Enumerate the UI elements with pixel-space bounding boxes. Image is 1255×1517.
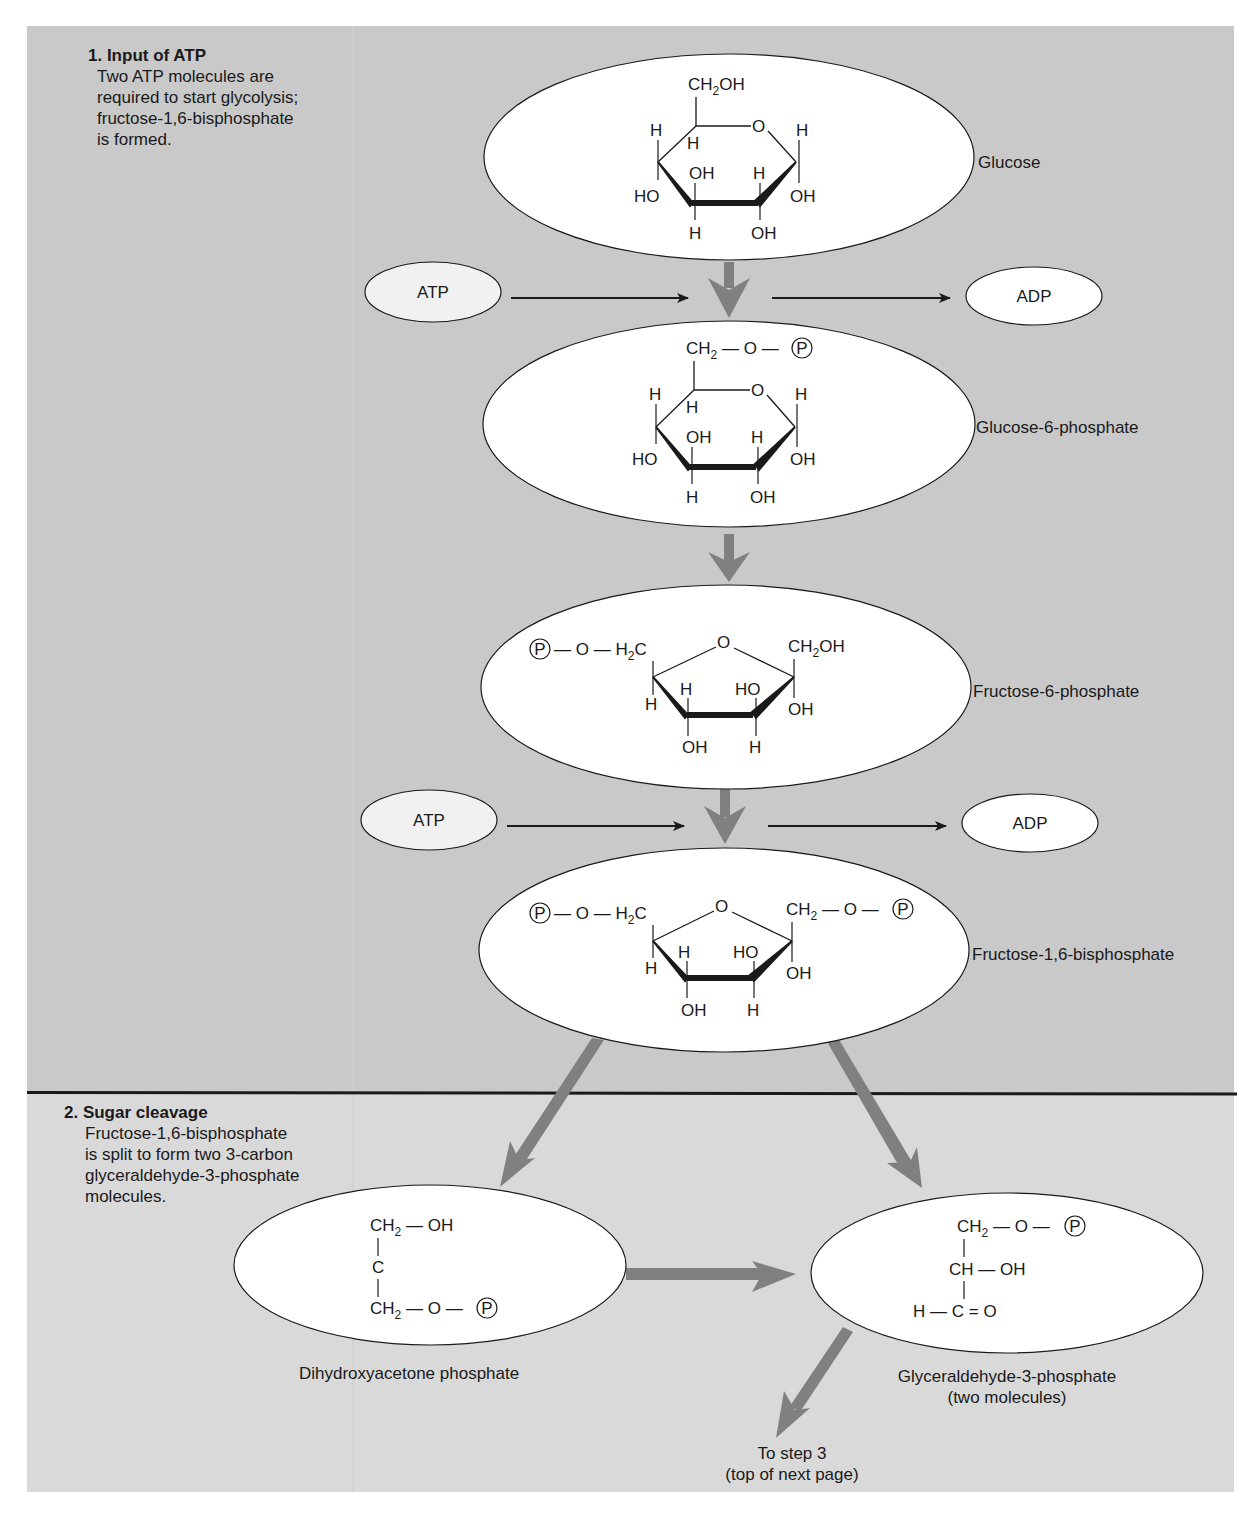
svg-text:H: H: [751, 428, 763, 447]
process-arrow-down: [708, 534, 750, 582]
fructose-1-6-bisphosphate-molecule: P — O — H2C O CH2 — O — P OH H H OH HO H: [479, 848, 969, 1052]
process-arrow-isomerase: [626, 1261, 796, 1292]
svg-text:OH: OH: [790, 187, 816, 206]
atp-pill: ATP: [365, 262, 501, 322]
svg-text:ATP: ATP: [417, 283, 449, 302]
svg-text:H: H: [686, 488, 698, 507]
to-step-3-note: To step 3 (top of next page): [692, 1443, 892, 1485]
svg-text:H: H: [795, 385, 807, 404]
svg-text:H: H: [687, 134, 699, 153]
process-arrow-split-left: [500, 1038, 604, 1187]
svg-text:H: H: [678, 943, 690, 962]
fructose-6-phosphate-label: Fructose-6-phosphate: [973, 681, 1139, 702]
svg-text:H: H: [680, 680, 692, 699]
svg-text:H — C = O: H — C = O: [913, 1302, 997, 1321]
svg-text:OH: OH: [682, 738, 708, 757]
svg-text:HO: HO: [735, 680, 761, 699]
svg-text:C: C: [372, 1258, 384, 1277]
svg-text:H: H: [645, 695, 657, 714]
svg-text:OH: OH: [681, 1001, 707, 1020]
glyceraldehyde-3-phosphate-name: Glyceraldehyde-3-phosphate: [857, 1366, 1157, 1387]
svg-text:P: P: [534, 904, 545, 923]
svg-text:OH: OH: [750, 488, 776, 507]
glucose-molecule: CH2OH O H HO H H OH OH H H OH: [484, 54, 974, 260]
svg-text:OH: OH: [790, 450, 816, 469]
svg-text:O: O: [752, 117, 765, 136]
svg-text:OH: OH: [686, 428, 712, 447]
fructose-1-6-bisphosphate-label: Fructose-1,6-bisphosphate: [972, 944, 1174, 965]
glyceraldehyde-3-phosphate-molecule: CH2 — O — P CH — OH H — C = O: [811, 1193, 1203, 1353]
svg-text:H: H: [749, 738, 761, 757]
svg-text:O: O: [751, 381, 764, 400]
svg-text:H: H: [796, 121, 808, 140]
svg-text:OH: OH: [751, 224, 777, 243]
glyceraldehyde-3-phosphate-count: (two molecules): [857, 1387, 1157, 1408]
glyceraldehyde-3-phosphate-label: Glyceraldehyde-3-phosphate (two molecule…: [857, 1366, 1157, 1408]
svg-text:P: P: [897, 900, 908, 919]
glucose-6-phosphate-label: Glucose-6-phosphate: [976, 417, 1139, 438]
svg-text:ADP: ADP: [1017, 287, 1052, 306]
fructose-6-phosphate-molecule: P — O — H2C O CH2OH OH H H OH HO H: [481, 585, 971, 789]
svg-text:P: P: [481, 1299, 492, 1318]
svg-text:H: H: [689, 224, 701, 243]
svg-text:H: H: [645, 959, 657, 978]
glycolysis-diagram: ATP ADP ATP ADP CH2OH O H HO H H OH OH: [0, 0, 1255, 1517]
svg-text:ADP: ADP: [1013, 814, 1048, 833]
process-arrow-to-step3: [776, 1327, 853, 1438]
svg-text:HO: HO: [632, 450, 658, 469]
svg-text:ATP: ATP: [413, 811, 445, 830]
svg-text:P: P: [1069, 1217, 1080, 1236]
svg-text:H: H: [650, 121, 662, 140]
svg-text:HO: HO: [634, 187, 660, 206]
process-arrow-down: [704, 787, 746, 844]
adp-pill: ADP: [962, 794, 1098, 852]
svg-text:H: H: [747, 1001, 759, 1020]
svg-text:CH — OH: CH — OH: [949, 1260, 1026, 1279]
svg-text:H: H: [686, 398, 698, 417]
svg-text:OH: OH: [788, 700, 814, 719]
dihydroxyacetone-phosphate-molecule: CH2 — OH C CH2 — O — P: [234, 1185, 626, 1345]
to-step-3-line2: (top of next page): [692, 1464, 892, 1485]
svg-text:H: H: [649, 385, 661, 404]
svg-text:O: O: [715, 897, 728, 916]
adp-pill: ADP: [966, 267, 1102, 325]
svg-text:O: O: [717, 633, 730, 652]
svg-text:HO: HO: [733, 943, 759, 962]
process-arrow-split-right: [826, 1038, 922, 1188]
dihydroxyacetone-phosphate-label: Dihydroxyacetone phosphate: [299, 1363, 519, 1384]
svg-text:H: H: [753, 164, 765, 183]
svg-text:P: P: [534, 640, 545, 659]
glucose-label: Glucose: [978, 152, 1040, 173]
svg-text:OH: OH: [786, 964, 812, 983]
svg-text:P: P: [796, 339, 807, 358]
atp-pill: ATP: [361, 790, 497, 850]
glucose-6-phosphate-molecule: CH2 — O — P O H HO H H OH OH H H OH: [483, 321, 975, 527]
process-arrow-down: [708, 262, 750, 318]
to-step-3-line1: To step 3: [692, 1443, 892, 1464]
svg-text:OH: OH: [689, 164, 715, 183]
